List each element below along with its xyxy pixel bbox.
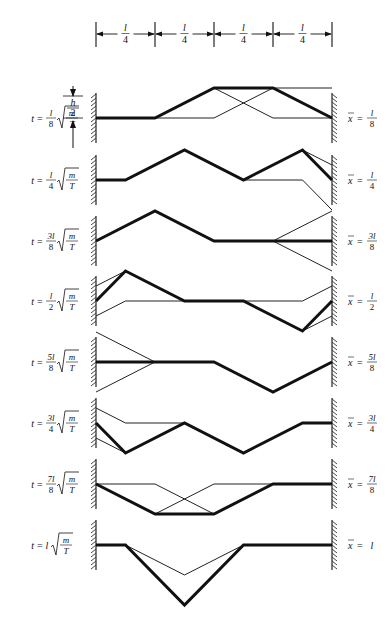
svg-text:m: m [69,231,76,241]
right-fixed-support [332,398,337,448]
svg-text:m: m [69,352,76,362]
svg-text:T: T [69,181,75,191]
left-fixed-support [91,93,96,143]
wave-diagram: l4l4l4l4 h 2 t=l8mTx=l8t=l4mTx=l4t=3l8mT… [0,0,391,629]
component-wave [155,484,273,514]
svg-text:T: T [69,242,75,252]
diagram-canvas: l4l4l4l4 h 2 t=l8mTx=l8t=l4mTx=l4t=3l8mT… [0,0,391,629]
component-wave [96,88,332,118]
right-fixed-support [332,337,337,387]
svg-text:x: x [347,236,353,247]
svg-text:8: 8 [49,363,54,373]
svg-text:x: x [347,175,353,186]
position-label: x=5l8 [347,352,377,373]
svg-text:8: 8 [370,485,375,495]
svg-text:4: 4 [49,424,54,434]
time-label: t=5l8mT [31,350,79,373]
ruler-label-denominator: 4 [300,34,305,45]
svg-text:2: 2 [49,302,54,312]
svg-text:l: l [50,108,53,118]
svg-text:x: x [347,357,353,368]
svg-text:7l: 7l [368,474,376,484]
svg-text:3l: 3l [46,413,55,423]
position-label: x=3l4 [347,413,377,434]
component-wave [126,545,244,575]
svg-text:T: T [69,424,75,434]
right-fixed-support [332,93,337,143]
svg-text:=: = [37,418,43,429]
ruler-label-denominator: 4 [123,34,128,45]
left-fixed-support [91,337,96,387]
snapshot-row-t1: t=l8mTx=l8 [31,88,377,143]
svg-text:T: T [63,546,69,556]
string-displacement [96,545,332,605]
svg-text:=: = [357,236,363,247]
component-wave [303,316,333,331]
time-label: t=3l8mT [31,229,79,252]
svg-text:l: l [371,108,374,118]
svg-text:=: = [37,540,43,551]
svg-text:m: m [63,535,70,545]
string-displacement [96,362,332,392]
svg-text:t: t [31,540,34,551]
svg-text:t: t [31,479,34,490]
right-fixed-support [332,520,337,570]
component-wave [96,408,185,423]
string-displacement [96,423,332,453]
component-wave [303,150,333,165]
svg-text:=: = [357,479,363,490]
time-label: t=l2mT [31,289,79,312]
snapshot-row-t3: t=3l8mTx=3l8 [31,211,377,271]
svg-text:x: x [347,113,353,124]
svg-text:4: 4 [49,181,54,191]
component-wave [96,271,126,286]
svg-text:T: T [69,119,75,129]
svg-text:T: T [69,302,75,312]
component-wave [273,241,332,271]
svg-text:t: t [31,296,34,307]
svg-text:t: t [31,113,34,124]
position-label: x=l8 [347,108,377,129]
svg-text:=: = [37,236,43,247]
position-label: x=l2 [347,291,377,312]
ruler-label-denominator: 4 [182,34,187,45]
svg-text:m: m [69,108,76,118]
svg-text:5l: 5l [47,352,55,362]
svg-text:T: T [69,485,75,495]
string-displacement [96,211,332,241]
snapshot-row-t5: t=5l8mTx=5l8 [31,332,377,392]
position-label: x=7l8 [347,474,377,495]
left-fixed-support [91,459,96,509]
svg-text:l: l [50,170,53,180]
right-fixed-support [332,216,337,266]
component-wave [96,484,214,514]
string-displacement [96,150,332,180]
time-label: t=3l4mT [31,411,79,434]
ruler-label-numerator: l [124,22,127,33]
ruler-label-numerator: l [183,22,186,33]
svg-text:t: t [31,357,34,368]
time-label: t=7l8mT [31,472,79,495]
svg-text:8: 8 [49,242,54,252]
time-label: t=l4mT [31,168,79,191]
left-fixed-support [91,216,96,266]
svg-text:=: = [357,296,363,307]
svg-text:t: t [31,175,34,186]
svg-text:7l: 7l [47,474,55,484]
component-wave [273,211,332,241]
svg-text:=: = [37,175,43,186]
svg-text:l: l [371,291,374,301]
snapshot-row-t2: t=l4mTx=l4 [31,150,377,210]
svg-text:m: m [69,413,76,423]
svg-text:x: x [347,418,353,429]
svg-text:x: x [347,296,353,307]
svg-text:=: = [357,175,363,186]
svg-text:=: = [37,479,43,490]
time-label: t=l8mT [31,106,79,129]
svg-text:l: l [46,540,49,551]
left-fixed-support [91,276,96,326]
position-label: x=3l8 [347,231,377,252]
snapshot-row-t8: t=lmTx=l [31,520,373,605]
svg-text:l: l [50,291,53,301]
snapshot-row-t6: t=3l4mTx=3l4 [31,398,377,453]
